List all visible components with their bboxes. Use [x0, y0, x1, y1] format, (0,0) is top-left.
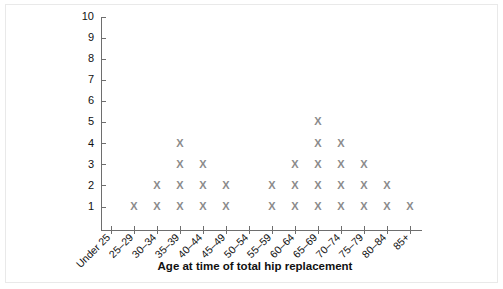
- x-axis-title: Age at time of total hip replacement: [158, 260, 353, 272]
- data-marker: X: [199, 200, 207, 212]
- x-axis-tick-label: 45–49: [198, 231, 227, 260]
- y-axis-tick-label: 8: [88, 52, 94, 64]
- data-marker: X: [199, 158, 207, 170]
- data-marker: X: [337, 179, 345, 191]
- data-marker: X: [314, 115, 322, 127]
- data-marker: X: [383, 179, 391, 191]
- data-marker: X: [314, 137, 322, 149]
- y-axis-tick-label: 4: [88, 137, 94, 149]
- x-axis-tick-label: 85+: [390, 231, 411, 252]
- data-marker: X: [199, 179, 207, 191]
- data-marker: X: [153, 200, 161, 212]
- y-axis-tick-label: 2: [88, 179, 94, 191]
- y-axis-tick-label: 3: [88, 158, 94, 170]
- data-marker: X: [314, 200, 322, 212]
- y-axis-tick-label: 6: [88, 94, 94, 106]
- data-marker: X: [291, 200, 299, 212]
- x-axis-tick-label: 65–69: [290, 231, 319, 260]
- data-marker: X: [360, 179, 368, 191]
- data-marker: X: [291, 158, 299, 170]
- data-marker: X: [222, 179, 230, 191]
- data-marker: X: [222, 200, 230, 212]
- x-axis-tick-label: 75–79: [336, 231, 365, 260]
- x-axis-tick-label: 30–34: [129, 231, 158, 260]
- data-marker: X: [176, 137, 184, 149]
- x-axis-tick-label: 80–84: [359, 231, 388, 260]
- y-axis: 12345678910: [82, 10, 106, 230]
- data-marker: X: [268, 200, 276, 212]
- data-markers: XXXXXXXXXXXXXXXXXXXXXXXXXXXXXXXX: [130, 115, 414, 211]
- data-marker: X: [337, 137, 345, 149]
- data-marker: X: [130, 200, 138, 212]
- data-marker: X: [176, 158, 184, 170]
- data-marker: X: [176, 179, 184, 191]
- data-marker: X: [291, 179, 299, 191]
- x-axis-tick-label: 60–64: [267, 231, 296, 260]
- data-marker: X: [383, 200, 391, 212]
- x-axis-tick-label: 25–29: [106, 231, 135, 260]
- y-axis-tick-label: 9: [88, 31, 94, 43]
- chart-frame: 12345678910 Under 2525–2930–3435–3940–44…: [0, 0, 503, 289]
- y-axis-tick-label: 1: [88, 200, 94, 212]
- data-marker: X: [314, 158, 322, 170]
- data-marker: X: [337, 200, 345, 212]
- y-axis-tick-label: 10: [82, 10, 94, 22]
- data-marker: X: [314, 179, 322, 191]
- x-axis-tick-label: 35–39: [152, 231, 181, 260]
- y-axis-tick-label: 5: [88, 115, 94, 127]
- data-marker: X: [360, 200, 368, 212]
- data-marker: X: [406, 200, 414, 212]
- data-marker: X: [337, 158, 345, 170]
- y-axis-tick-label: 7: [88, 73, 94, 85]
- data-marker: X: [360, 158, 368, 170]
- x-axis-tick-label: 70–74: [313, 231, 342, 260]
- x-axis-tick-label: 40–44: [175, 231, 204, 260]
- data-marker: X: [176, 200, 184, 212]
- x-axis-tick-label: 55–59: [244, 231, 273, 260]
- data-marker: X: [268, 179, 276, 191]
- data-marker: X: [153, 179, 161, 191]
- dot-plot-chart: 12345678910 Under 2525–2930–3435–3940–44…: [0, 0, 503, 289]
- x-axis-tick-label: 50–54: [221, 231, 250, 260]
